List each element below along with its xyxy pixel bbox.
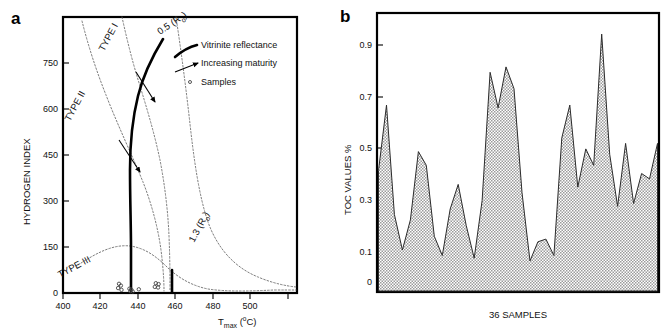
x-tick-label-420: 420 [92,301,107,311]
toc-y-tick-label-0-9: 0.9 [359,40,372,50]
x-tick-label-440: 440 [130,301,145,311]
panel-a-legend: Vitrinite reflectance Increasing maturit… [175,40,278,87]
legend-label-vitrinite-reflectance: Vitrinite reflectance [201,40,277,50]
vitrinite-0-5-ro-curve [130,39,163,292]
panel-a-plot: 0 150 300 450 600 750 HYDROGEN INDEX 40 [0,0,335,334]
toc-y-tick-label-0-5: 0.5 [359,143,372,153]
toc-area-polygon [379,34,658,291]
legend-label-samples: Samples [201,77,237,87]
sample-point [116,286,119,289]
toc-y-tick-label-0-3: 0.3 [359,195,372,205]
panel-a: a 0 150 300 450 600 750 HYD [0,0,335,334]
toc-y-tick-label-0-1: 0.1 [359,247,372,257]
legend-thick-line-swatch [175,45,197,57]
panel-a-sample-points [116,282,160,294]
x-tick-label-480: 480 [205,301,220,311]
label-ro-1-3: 1.3 (Ro) [186,210,213,245]
toc-y-tick-label-0: 0 [367,277,372,287]
panel-b-plot: 0.9 0.7 0.5 0.3 0.1 0 TOC VALUES % 36 SA… [335,0,670,334]
x-axis-title-unit: C) [246,316,256,327]
panel-a-y-tick-labels: 0 150 300 450 600 750 [43,58,58,298]
sample-point [120,288,123,291]
sample-point [153,285,156,288]
panel-b-x-axis-title: 36 SAMPLES [489,309,547,320]
x-tick-label-460: 460 [167,301,182,311]
type-iii-envelope-curve [78,246,296,291]
x-axis-title-sub: max [224,322,238,329]
toc-y-tick-label-0-7: 0.7 [359,92,372,102]
sample-point [156,286,159,289]
panel-a-y-axis-title: HYDROGEN INDEX [21,138,32,225]
figure-root: a 0 150 300 450 600 750 HYD [0,0,670,334]
y-tick-label-750: 750 [43,58,58,68]
legend-label-increasing-maturity: Increasing maturity [201,58,278,68]
x-tick-label-500: 500 [242,301,257,311]
label-type-ii: TYPE II [62,89,87,123]
panel-a-x-tick-labels: 400 420 440 460 480 500 [55,301,257,311]
legend-arrow-swatch [175,63,198,72]
y-tick-label-450: 450 [43,150,58,160]
x-tick-label-400: 400 [55,301,70,311]
panel-b: b 0.9 0.7 0.5 [335,0,670,334]
label-type-iii: TYPE III [56,253,92,279]
label-type-i: TYPE I [96,21,120,53]
panel-b-y-tick-labels: 0.9 0.7 0.5 0.3 0.1 0 [359,40,372,287]
y-tick-label-600: 600 [43,104,58,114]
y-tick-label-300: 300 [43,196,58,206]
panel-b-y-axis-title: TOC VALUES % [342,144,353,215]
label-ro-1-3-tail: ) [200,210,211,218]
sample-point [137,288,140,291]
y-tick-label-0: 0 [53,288,58,298]
panel-a-x-axis-title: Tmax (oC) [218,315,257,329]
y-tick-label-150: 150 [43,242,58,252]
legend-circle-swatch [189,81,192,84]
label-ro-0-5: 0.5 (Ro) [155,9,190,38]
